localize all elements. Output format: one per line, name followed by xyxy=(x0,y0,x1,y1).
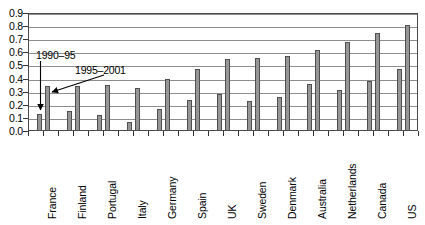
y-tick-label: 0.3 xyxy=(9,86,23,97)
annotation-series-1995-2001: 1995–2001 xyxy=(75,65,126,76)
x-axis-label: Portugal xyxy=(107,181,118,219)
bar xyxy=(37,114,42,131)
x-tick-mark xyxy=(148,131,149,136)
y-tick-label: 0.0 xyxy=(9,126,23,137)
bar xyxy=(165,79,170,131)
x-tick-mark xyxy=(133,131,134,136)
x-tick-mark xyxy=(403,131,404,136)
bar xyxy=(135,88,140,131)
bar-group xyxy=(37,13,50,131)
x-axis-label: Italy xyxy=(137,200,148,219)
x-tick-mark xyxy=(208,131,209,136)
y-tick-label: 0.6 xyxy=(9,47,23,58)
x-axis-label: Australia xyxy=(317,179,328,219)
x-tick-mark xyxy=(388,131,389,136)
x-axis-label: Canada xyxy=(377,183,388,219)
bar-group xyxy=(367,13,380,131)
x-axis-label: UK xyxy=(227,205,238,219)
bar xyxy=(375,33,380,131)
bar xyxy=(97,115,102,131)
x-tick-mark xyxy=(118,131,119,136)
bar xyxy=(345,42,350,131)
x-tick-mark xyxy=(73,131,74,136)
x-tick-mark xyxy=(343,131,344,136)
bar-group xyxy=(127,13,140,131)
y-tick-label: 0.8 xyxy=(9,21,23,32)
x-tick-mark xyxy=(328,131,329,136)
x-tick-mark xyxy=(253,131,254,136)
bar xyxy=(315,50,320,131)
x-tick-mark xyxy=(283,131,284,136)
x-tick-mark xyxy=(358,131,359,136)
x-axis-label: France xyxy=(47,187,58,219)
bar xyxy=(247,101,252,131)
bar-group xyxy=(247,13,260,131)
y-tick-label: 0.9 xyxy=(9,8,23,19)
bar-group xyxy=(307,13,320,131)
x-tick-mark xyxy=(313,131,314,136)
y-tick-label: 0.2 xyxy=(9,100,23,111)
x-tick-mark xyxy=(193,131,194,136)
x-tick-mark xyxy=(43,131,44,136)
bar xyxy=(157,109,162,131)
y-tick-label: 0.7 xyxy=(9,34,23,45)
x-axis-label: Spain xyxy=(197,193,208,219)
bar-group xyxy=(187,13,200,131)
x-tick-mark xyxy=(373,131,374,136)
x-axis-label: Germany xyxy=(167,177,178,219)
x-axis-label: Denmark xyxy=(287,177,298,219)
y-tick-label: 0.5 xyxy=(9,60,23,71)
y-axis: 0.00.10.20.30.40.50.60.70.80.9 xyxy=(0,0,28,131)
x-tick-mark xyxy=(268,131,269,136)
y-tick-label: 0.4 xyxy=(9,73,23,84)
x-tick-mark xyxy=(58,131,59,136)
bar xyxy=(277,97,282,131)
bar xyxy=(367,81,372,131)
x-axis-label: US xyxy=(407,205,418,219)
x-tick-mark xyxy=(88,131,89,136)
bar xyxy=(225,59,230,131)
y-tick-label: 0.1 xyxy=(9,113,23,124)
bar xyxy=(195,69,200,131)
x-axis-labels: FranceFinlandPortugalItalyGermanySpainUK… xyxy=(28,137,418,223)
x-tick-mark xyxy=(163,131,164,136)
bar xyxy=(307,84,312,131)
bar xyxy=(255,58,260,131)
bar-group xyxy=(337,13,350,131)
bar-group xyxy=(157,13,170,131)
bar xyxy=(405,25,410,131)
x-tick-mark xyxy=(298,131,299,136)
bar xyxy=(67,111,72,131)
x-tick-mark xyxy=(178,131,179,136)
bar-group xyxy=(397,13,410,131)
bar xyxy=(187,100,192,131)
x-tick-mark xyxy=(28,131,29,136)
x-tick-mark xyxy=(223,131,224,136)
bar-group xyxy=(277,13,290,131)
bar xyxy=(105,85,110,131)
bar-group xyxy=(217,13,230,131)
annotation-series-1990-95: 1990–95 xyxy=(36,50,75,61)
bar xyxy=(127,122,132,131)
x-tick-mark xyxy=(103,131,104,136)
x-tick-mark xyxy=(418,131,419,136)
bar xyxy=(217,94,222,131)
bar xyxy=(337,90,342,131)
bar-chart: 0.00.10.20.30.40.50.60.70.80.9 FranceFin… xyxy=(0,0,425,225)
x-axis-label: Sweden xyxy=(257,182,268,219)
x-axis-label: Finland xyxy=(77,185,88,219)
bar xyxy=(397,69,402,131)
x-tick-mark xyxy=(238,131,239,136)
bar xyxy=(75,86,80,131)
bar xyxy=(285,56,290,131)
bar xyxy=(45,86,50,131)
x-axis-label: Netherlands xyxy=(347,163,358,219)
